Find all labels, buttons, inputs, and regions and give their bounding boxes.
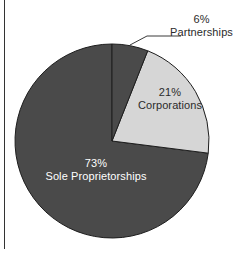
- slice-label-sole-proprietorships: 73% Sole Proprietorships: [30, 157, 162, 183]
- slice-percent-partnerships: 6%: [170, 13, 233, 26]
- slice-label-corporations: 21% Corporations: [133, 86, 207, 112]
- pie-chart-figure: 6% Partnerships 21% Corporations 73% Sol…: [0, 0, 246, 253]
- slice-percent-corporations: 21%: [133, 86, 207, 99]
- slice-percent-sole-proprietorships: 73%: [30, 157, 162, 170]
- pie-slices: [15, 44, 209, 238]
- slice-name-corporations: Corporations: [133, 99, 207, 112]
- slice-name-partnerships: Partnerships: [170, 26, 233, 39]
- slice-label-partnerships: 6% Partnerships: [170, 13, 233, 39]
- slice-name-sole-proprietorships: Sole Proprietorships: [30, 170, 162, 183]
